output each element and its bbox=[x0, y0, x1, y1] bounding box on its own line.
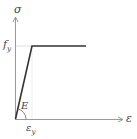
yield-strain-subscript: y bbox=[31, 128, 35, 136]
stress-strain-diagram bbox=[0, 0, 137, 139]
modulus-label: E bbox=[21, 101, 28, 111]
yield-stress-label: fy bbox=[3, 39, 11, 53]
yield-stress-subscript: y bbox=[7, 45, 11, 53]
y-axis-label: σ bbox=[14, 4, 22, 15]
yield-strain-label: εy bbox=[26, 123, 35, 136]
x-axis-label: ε bbox=[126, 113, 132, 124]
